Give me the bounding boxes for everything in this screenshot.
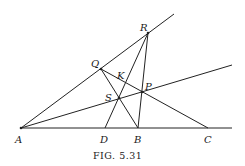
point-Q bbox=[100, 68, 103, 71]
line-A-S-P bbox=[21, 65, 232, 128]
label-S: S bbox=[105, 92, 112, 103]
line-A-Q-R bbox=[21, 14, 174, 128]
label-Q: Q bbox=[91, 58, 99, 69]
label-C: C bbox=[204, 134, 212, 145]
label-P: P bbox=[144, 81, 152, 92]
label-R: R bbox=[139, 22, 148, 33]
point-S bbox=[118, 97, 121, 100]
geometry-diagram: A D B C R Q K P S FIG. 5.31 bbox=[0, 0, 245, 166]
segment-R-D bbox=[105, 33, 148, 128]
label-K: K bbox=[116, 70, 125, 81]
label-B: B bbox=[133, 134, 141, 145]
figure-caption: FIG. 5.31 bbox=[93, 150, 142, 161]
point-P bbox=[141, 91, 144, 94]
label-A: A bbox=[14, 134, 22, 145]
label-D: D bbox=[99, 134, 108, 145]
point-A bbox=[20, 127, 23, 130]
